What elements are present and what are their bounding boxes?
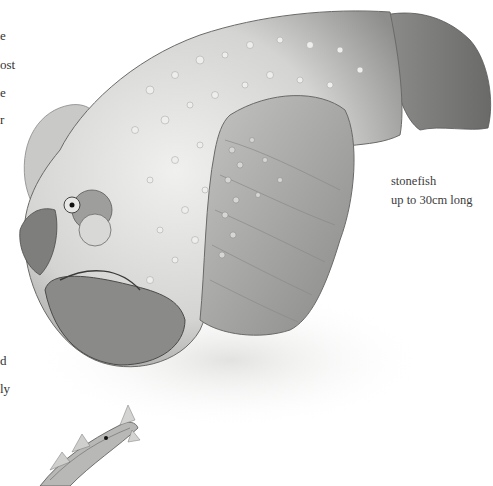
species-caption: stonefish up to 30cm long	[391, 172, 473, 210]
species-size: up to 30cm long	[391, 191, 473, 210]
stonefish-illustration	[0, 0, 493, 486]
eye-bulge	[79, 214, 111, 246]
small-fish-illustration	[40, 405, 140, 486]
species-name: stonefish	[391, 172, 473, 191]
